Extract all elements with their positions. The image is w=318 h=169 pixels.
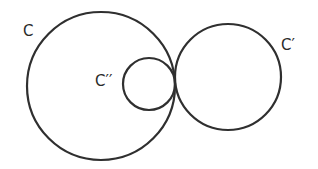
label-c-double-prime: C′′ [95,74,112,89]
circle-c-double-prime [123,58,175,110]
label-c: C [23,24,33,39]
label-c-prime: C′ [281,38,295,53]
circle-c-prime [175,24,281,130]
tangent-circles-diagram [0,0,318,169]
